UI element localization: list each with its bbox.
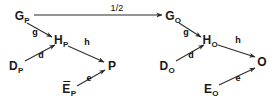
node-subscript: O [175,16,181,25]
node-base-letter: H [203,33,212,47]
edge-label-d-p: d [38,51,44,60]
node-base-letter: D [160,59,169,73]
node-base-letter: E [62,83,70,95]
node-d-o: DO [160,60,175,72]
edge-label-h-o: h [235,36,241,45]
edge-label-e-p: e [86,74,91,83]
node-subscript: P [71,89,76,98]
node-d-p: DP [9,60,23,72]
node-e-o: EO [204,83,218,95]
edge-arrow-g [27,23,52,37]
edge-label-h-p: h [84,38,90,47]
node-base-letter: P [108,59,116,73]
node-subscript: P [63,40,68,49]
node-subscript: P [18,66,23,75]
node-h-o: HO [203,34,218,46]
node-subscript: O [212,89,218,98]
node-base-letter: O [257,55,266,69]
node-base-letter: D [9,59,18,73]
node-base-letter: E [204,82,212,96]
node-o: O [257,56,266,68]
edge-label-half: 1/2 [110,4,123,13]
node-base-letter: G [15,9,24,23]
node-g-p: GP [15,10,30,22]
node-subscript: O [212,40,218,49]
edge-arrow-h [218,45,255,57]
edge-label-g-p: g [32,28,38,37]
diagram-canvas: GPHPDPPEPGOHODOOEO 1/2gdhegdhe [0,0,277,105]
node-g-o: GO [165,10,181,22]
node-base-letter: H [54,33,63,47]
edge-label-d-o: d [188,51,194,60]
node-base-letter: G [165,9,174,23]
node-h-p: HP [54,34,68,46]
node-e-p: EP [62,83,75,95]
edge-label-g-o: g [183,28,189,37]
edge-arrow-h [68,46,104,62]
node-subscript: O [169,66,175,75]
edge-label-e-o: e [235,74,240,83]
node-subscript: P [24,16,29,25]
node-p: P [108,60,116,72]
